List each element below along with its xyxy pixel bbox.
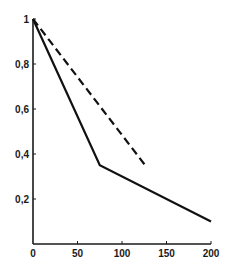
line-chart: 0,20,40,60,81 050100150200 bbox=[0, 0, 232, 268]
y-tick-label: 0,8 bbox=[15, 59, 29, 70]
x-tick-label: 0 bbox=[30, 248, 36, 259]
x-tick-label: 200 bbox=[203, 248, 220, 259]
y-tick-label: 0,4 bbox=[15, 149, 29, 160]
x-axis: 050100150200 bbox=[30, 241, 220, 259]
series-layer bbox=[33, 19, 211, 222]
y-tick-label: 0,2 bbox=[15, 194, 29, 205]
y-tick-label: 0,6 bbox=[15, 104, 29, 115]
x-tick-label: 50 bbox=[72, 248, 84, 259]
x-tick-label: 100 bbox=[114, 248, 131, 259]
series-solid-line bbox=[33, 19, 211, 222]
x-tick-label: 150 bbox=[158, 248, 175, 259]
y-tick-label: 1 bbox=[23, 14, 29, 25]
y-axis: 0,20,40,60,81 bbox=[15, 14, 36, 245]
